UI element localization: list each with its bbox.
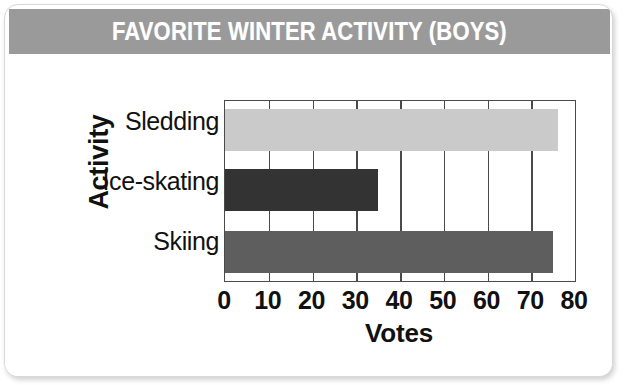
x-tick-10: 10: [254, 286, 281, 315]
chart-card: FAVORITE WINTER ACTIVITY (BOYS) Activity…: [4, 4, 613, 377]
plot-area: [224, 100, 576, 282]
category-label-ice-skating: Ice-skating: [103, 160, 220, 202]
category-label-sledding: Sledding: [125, 100, 219, 142]
category-labels: Sledding Ice-skating Skiing: [75, 100, 223, 280]
x-tick-70: 70: [517, 286, 544, 315]
x-tick-40: 40: [386, 286, 413, 315]
x-tick-80: 80: [561, 286, 588, 315]
bar-sledding: [225, 109, 558, 151]
x-axis-ticks: 01020304050607080: [224, 286, 574, 318]
x-tick-0: 0: [217, 286, 230, 315]
bar-skiing: [225, 231, 553, 273]
category-label-skiing: Skiing: [153, 220, 219, 262]
x-axis-title: Votes: [224, 318, 574, 349]
chart-title-banner: FAVORITE WINTER ACTIVITY (BOYS): [9, 9, 610, 54]
chart-title: FAVORITE WINTER ACTIVITY (BOYS): [112, 17, 507, 46]
x-tick-50: 50: [429, 286, 456, 315]
x-tick-30: 30: [342, 286, 369, 315]
bar-ice-skating: [225, 169, 378, 211]
x-tick-60: 60: [473, 286, 500, 315]
chart-body: Activity Sledding Ice-skating Skiing 010…: [5, 54, 613, 377]
x-tick-20: 20: [298, 286, 325, 315]
